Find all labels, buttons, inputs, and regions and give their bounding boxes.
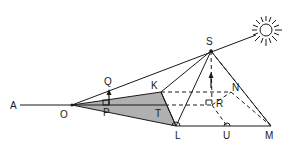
- arrow-up-icon: [209, 72, 214, 78]
- pyramid-shadow-diagram: A O P Q K T L S N R U M: [0, 0, 291, 162]
- label-U: U: [223, 130, 230, 141]
- edge-SK: [161, 51, 211, 92]
- right-angle-R: [206, 100, 212, 105]
- label-N: N: [232, 82, 239, 93]
- dashed-NM: [231, 92, 271, 126]
- label-O: O: [60, 109, 68, 120]
- label-P: P: [103, 107, 110, 118]
- label-A: A: [10, 100, 17, 111]
- sun-icon: [252, 16, 282, 46]
- edge-SL: [176, 51, 211, 126]
- label-M: M: [265, 130, 273, 141]
- vertex-S: [209, 49, 213, 53]
- sun-ray: [72, 35, 256, 105]
- label-Q: Q: [104, 76, 112, 87]
- label-S: S: [206, 36, 213, 47]
- vertex-O: [71, 104, 74, 107]
- label-L: L: [175, 130, 181, 141]
- label-T: T: [155, 108, 161, 119]
- label-R: R: [216, 98, 223, 109]
- label-K: K: [151, 80, 158, 91]
